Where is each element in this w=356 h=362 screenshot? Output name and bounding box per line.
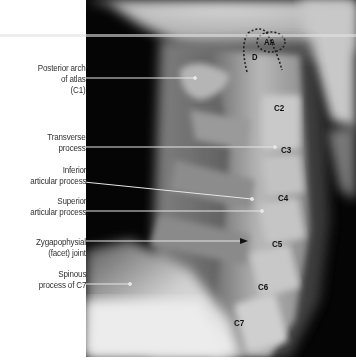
vertebra-label-c4: C4	[278, 192, 288, 203]
label-spinous-process-c7: Spinous process of C7	[38, 268, 86, 290]
label-transverse-process: Transverse process	[48, 131, 86, 153]
outline-label-dens: D	[252, 52, 258, 62]
outline-label-anterior-arch: AA	[264, 37, 275, 47]
vertebra-label-c3: C3	[281, 144, 291, 155]
vertebra-label-c7: C7	[234, 317, 244, 328]
vertebra-label-c6: C6	[258, 281, 268, 292]
label-zygapophysial-joint: Zygapophysial (facet) joint	[36, 236, 86, 258]
label-posterior-arch-atlas: Posterior arch of atlas (C1)	[38, 62, 86, 95]
scan-artifact-line	[0, 34, 356, 37]
radiograph-figure: Posterior arch of atlas (C1) Transverse …	[0, 0, 356, 362]
label-superior-articular-process: Superior articular process	[30, 195, 86, 217]
vertebra-label-c5: C5	[272, 238, 282, 249]
xray-graphic	[86, 0, 356, 357]
label-inferior-articular-process: Inferior articular process	[30, 164, 86, 186]
vertebra-label-c2: C2	[274, 102, 284, 113]
xray-image	[86, 0, 356, 357]
